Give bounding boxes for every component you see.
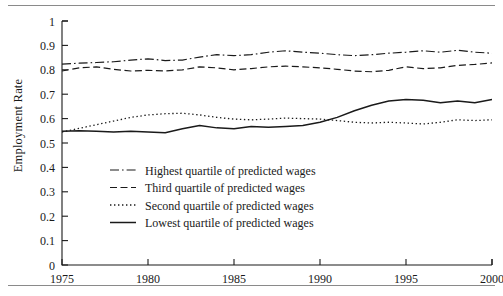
series-line — [62, 100, 492, 133]
line-chart: 00.10.20.30.40.50.60.70.80.9119751980198… — [0, 0, 503, 296]
x-tick-label: 1975 — [50, 272, 74, 286]
y-tick-label: 0.4 — [40, 161, 55, 175]
y-tick-label: 0.5 — [40, 137, 55, 151]
figure: Employment Rate 00.10.20.30.40.50.60.70.… — [0, 0, 503, 296]
y-tick-label: 0.9 — [40, 39, 55, 53]
chart-legend: Highest quartile of predicted wagesThird… — [110, 164, 316, 231]
series-line — [62, 50, 492, 64]
y-tick-label: 0.6 — [40, 112, 55, 126]
legend-label: Highest quartile of predicted wages — [145, 164, 316, 178]
y-tick-label: 1 — [49, 15, 55, 29]
y-tick-label: 0.2 — [40, 210, 55, 224]
x-tick-label: 1980 — [136, 272, 160, 286]
y-tick-label: 0.3 — [40, 185, 55, 199]
x-tick-label: 1995 — [394, 272, 418, 286]
series-line — [62, 113, 492, 132]
y-tick-label: 0.7 — [40, 88, 55, 102]
legend-label: Second quartile of predicted wages — [145, 199, 314, 213]
x-tick-label: 1990 — [308, 272, 332, 286]
y-tick-label: 0.8 — [40, 63, 55, 77]
x-tick-label: 2000 — [480, 272, 503, 286]
chart-plot-area: 00.10.20.30.40.50.60.70.80.9119751980198… — [0, 0, 503, 296]
x-tick-label: 1985 — [222, 272, 246, 286]
y-tick-label: 0.1 — [40, 234, 55, 248]
legend-label: Third quartile of predicted wages — [145, 181, 305, 195]
axes-group: 00.10.20.30.40.50.60.70.80.9119751980198… — [40, 15, 503, 287]
data-series-group — [62, 50, 492, 132]
y-tick-label: 0 — [49, 259, 55, 273]
legend-label: Lowest quartile of predicted wages — [145, 216, 314, 230]
series-line — [62, 63, 492, 72]
